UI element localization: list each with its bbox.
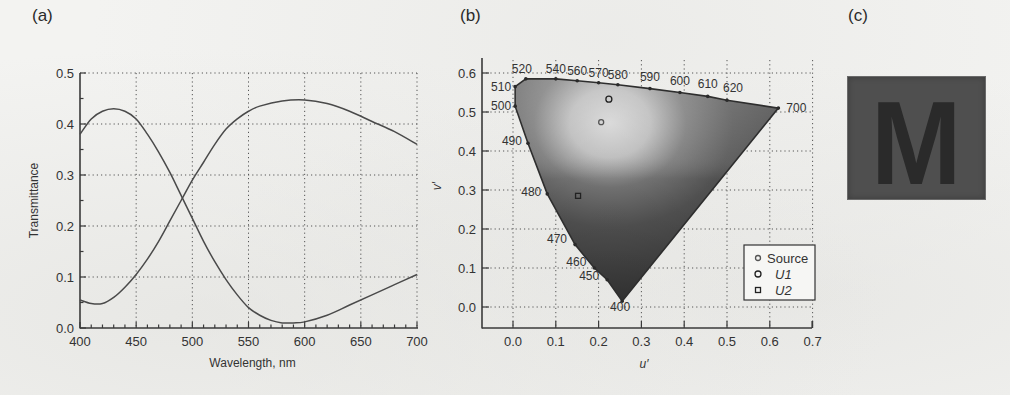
wavelength-label: 520 bbox=[512, 62, 532, 76]
legend-label-u2: U2 bbox=[775, 283, 792, 298]
wavelength-label: 700 bbox=[786, 101, 806, 115]
locus-point bbox=[524, 77, 528, 81]
wavelength-label: 480 bbox=[521, 185, 541, 199]
legend-label-u1: U1 bbox=[775, 267, 792, 282]
locus-point bbox=[706, 95, 710, 99]
locus-point bbox=[777, 106, 781, 110]
locus-point bbox=[554, 77, 558, 81]
locus-point bbox=[725, 99, 729, 103]
x-tick-label: 400 bbox=[69, 334, 91, 349]
legend: SourceU1U2 bbox=[744, 245, 815, 300]
y-tick-label: 0.0 bbox=[458, 300, 476, 315]
m-letter: M bbox=[871, 84, 961, 202]
chromaticity-chart: 4004504604704804905005105205405605705805… bbox=[430, 58, 822, 371]
wavelength-label: 450 bbox=[579, 269, 599, 283]
wavelength-label: 500 bbox=[491, 99, 511, 113]
x-tick-label: 0.2 bbox=[590, 334, 608, 349]
m-stimulus-image: M bbox=[847, 76, 986, 200]
x-axis-title: u′ bbox=[640, 357, 650, 371]
locus-point bbox=[678, 91, 682, 95]
wavelength-label: 540 bbox=[546, 62, 566, 76]
locus-point bbox=[605, 278, 609, 282]
y-tick-label: 0.2 bbox=[56, 219, 74, 234]
locus-point bbox=[575, 79, 579, 83]
x-tick-label: 0.1 bbox=[547, 334, 565, 349]
wavelength-label: 570 bbox=[589, 66, 609, 80]
locus-point bbox=[597, 81, 601, 85]
locus-point bbox=[616, 83, 620, 87]
x-tick-label: 650 bbox=[350, 334, 372, 349]
x-tick-label: 0.3 bbox=[632, 334, 650, 349]
x-tick-label: 0.5 bbox=[718, 334, 736, 349]
wavelength-label: 470 bbox=[547, 232, 567, 246]
x-tick-label: 0.0 bbox=[504, 334, 522, 349]
y-tick-label: 0.3 bbox=[56, 168, 74, 183]
y-tick-label: 0.5 bbox=[56, 66, 74, 81]
x-tick-label: 600 bbox=[294, 334, 316, 349]
wavelength-label: 620 bbox=[723, 81, 743, 95]
locus-point bbox=[526, 141, 530, 145]
wavelength-label: 610 bbox=[698, 77, 718, 91]
y-tick-label: 0.4 bbox=[56, 117, 74, 132]
x-tick-label: 500 bbox=[181, 334, 203, 349]
y-tick-label: 0.0 bbox=[56, 321, 74, 336]
x-tick-label: 0.6 bbox=[761, 334, 779, 349]
wavelength-label: 600 bbox=[670, 74, 690, 88]
x-axis-title: Wavelength, nm bbox=[209, 356, 295, 370]
y-axis-title: v′ bbox=[430, 181, 444, 190]
x-tick-label: 550 bbox=[238, 334, 260, 349]
y-tick-label: 0.1 bbox=[56, 270, 74, 285]
legend-label-source: Source bbox=[767, 251, 808, 266]
x-tick-label: 0.7 bbox=[804, 334, 822, 349]
y-tick-label: 0.3 bbox=[458, 183, 476, 198]
wavelength-label: 490 bbox=[502, 134, 522, 148]
x-tick-label: 700 bbox=[406, 334, 428, 349]
locus-point bbox=[513, 85, 517, 89]
transmittance-chart: 4004505005506006507000.00.10.20.30.40.5W… bbox=[27, 66, 428, 371]
transmittance-curve-filter-2 bbox=[80, 100, 417, 304]
wavelength-label: 460 bbox=[566, 255, 586, 269]
wavelength-label: 580 bbox=[608, 68, 628, 82]
y-tick-label: 0.4 bbox=[458, 144, 476, 159]
y-axis-title: Transmittance bbox=[27, 162, 41, 238]
locus-point bbox=[648, 87, 652, 91]
locus-point bbox=[513, 104, 517, 108]
wavelength-label: 590 bbox=[640, 70, 660, 84]
y-tick-label: 0.6 bbox=[458, 66, 476, 81]
wavelength-label: 560 bbox=[567, 64, 587, 78]
y-tick-label: 0.1 bbox=[458, 261, 476, 276]
y-tick-label: 0.2 bbox=[458, 222, 476, 237]
x-tick-label: 0.4 bbox=[675, 334, 693, 349]
x-tick-label: 450 bbox=[125, 334, 147, 349]
wavelength-label: 510 bbox=[491, 80, 511, 94]
y-tick-label: 0.5 bbox=[458, 105, 476, 120]
locus-point bbox=[573, 243, 577, 247]
wavelength-label: 400 bbox=[610, 300, 630, 314]
locus-point bbox=[545, 192, 549, 196]
